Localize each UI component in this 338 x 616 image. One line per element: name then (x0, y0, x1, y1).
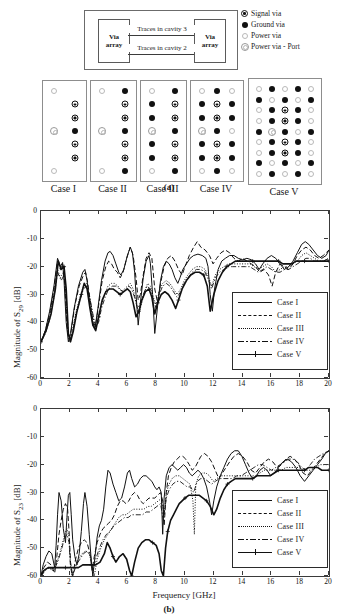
legend-item-signal-via: Signal via (238, 8, 338, 19)
chart-s29-legend: Case ICase IICase IIICase IVCase V (232, 292, 328, 370)
via-array-right: Via array (194, 19, 226, 63)
power-via-marker (149, 88, 155, 94)
case-diagram-3 (140, 80, 187, 182)
chart-s23-xtick-mark (184, 571, 185, 575)
legend-entry-3: Case III (233, 520, 327, 533)
legend-entry-label: Case I (277, 298, 298, 307)
chart-s29-ytick: -30 (18, 289, 37, 298)
chart-s29-xtick: 18 (295, 379, 303, 388)
chart-s29-xtick: 20 (324, 379, 332, 388)
ground-via-marker (229, 101, 235, 107)
ground-via-marker (172, 128, 178, 134)
case-diagram-1 (42, 80, 87, 182)
ground-via-marker (282, 97, 288, 103)
ground-via-marker (269, 150, 275, 156)
chart-s23-xtick-mark (213, 571, 214, 575)
chart-s23-xtick-mark-top (328, 408, 329, 412)
chart-s23-xtick-mark (126, 571, 127, 575)
chart-s29-xtick-mark-top (126, 210, 127, 214)
legend-item-power-via-port: Power via - Port (238, 41, 338, 52)
chart-s23-xtick-mark-top (98, 408, 99, 412)
power-via-marker (308, 107, 314, 113)
via-grid (43, 81, 86, 181)
chart-s29-xtick: 10 (180, 379, 188, 388)
chart-s29-ytick: -20 (18, 261, 37, 270)
chart-s23-ytick: -20 (18, 459, 37, 468)
chart-s23-ytick: -60 (18, 571, 37, 580)
chart-s23-ytick-mark-right (324, 575, 328, 576)
chart-s29-xtick-mark-top (213, 210, 214, 214)
chart-s29-ytick-mark (40, 210, 44, 211)
chart-s23-xtick-mark-top (299, 408, 300, 412)
chart-s23-xtick-mark-top (270, 408, 271, 412)
chart-s23-ytick-mark-right (324, 436, 328, 437)
chart-s23-xtick-mark (299, 571, 300, 575)
ground-via-marker (269, 118, 275, 124)
series-marker (79, 293, 83, 297)
legend-line-swatch (238, 495, 272, 506)
chart-s29-ytick-mark (40, 266, 44, 267)
trace-label-cavity2: Traces in cavity 2 (129, 44, 195, 52)
legend-label-power-via: Power via (251, 31, 281, 40)
signal-via-marker (214, 141, 221, 148)
ground-via-marker (308, 129, 314, 135)
chart-s29-ylabel-sub: 29 (17, 305, 25, 312)
legend-marker-icon (252, 351, 258, 357)
power-via-marker (269, 97, 275, 103)
power-via-marker (295, 129, 301, 135)
signal-via-marker (172, 141, 179, 148)
ground-via-marker (295, 139, 301, 145)
signal-via-marker (122, 114, 129, 121)
ground-via-marker (214, 168, 220, 174)
chart-s23-xtick: 8 (153, 577, 157, 586)
trace-label-cavity3: Traces in cavity 3 (129, 25, 195, 33)
chart-s23-xtick: 16 (267, 577, 275, 586)
chart-s29-ytick: -40 (18, 317, 37, 326)
panel-a: Via array Via array Traces in cavity 3 T… (0, 0, 338, 200)
chart-s29-xtick: 0 (38, 379, 42, 388)
legend-entry-label: Case V (277, 350, 301, 359)
chart-s23-ytick: -10 (18, 431, 37, 440)
ground-via-marker (229, 115, 235, 121)
power-via-marker (199, 168, 205, 174)
ground-via-marker (295, 86, 301, 92)
signal-via-marker (282, 117, 289, 124)
signal-via-marker (172, 101, 179, 108)
ground-via-marker (172, 88, 178, 94)
signal-via-marker (122, 141, 129, 148)
ground-via-marker (269, 171, 275, 177)
signal-via-marker (172, 114, 179, 121)
series-marker (177, 298, 181, 302)
legend-entry-5: Case V (233, 546, 327, 559)
chart-s29-xtick: 4 (96, 379, 100, 388)
power-via-marker (308, 86, 314, 92)
chart-s23-xtick: 4 (96, 577, 100, 586)
power-via-marker (51, 88, 57, 94)
legend-line-swatch (238, 349, 272, 360)
signal-via-marker (72, 101, 79, 108)
chart-s29-xtick-mark (69, 373, 70, 377)
legend-entry-label: Case IV (277, 337, 304, 346)
legend-label-power-via-port: Power via - Port (251, 42, 300, 51)
via-grid (91, 81, 136, 181)
legend-line-swatch (238, 336, 272, 347)
ground-via-marker (269, 86, 275, 92)
power-via-marker (256, 107, 262, 113)
ground-via-marker (295, 118, 301, 124)
chart-s29-ytick-mark (40, 321, 44, 322)
chart-s23-xtick: 6 (125, 577, 129, 586)
chart-s23-xtick-mark (155, 571, 156, 575)
figure-root: Via array Via array Traces in cavity 3 T… (0, 0, 338, 616)
ground-via-marker (269, 139, 275, 145)
power-via-marker (308, 150, 314, 156)
power-via-marker (256, 150, 262, 156)
chart-s29-xtick-mark-top (184, 210, 185, 214)
ground-via-marker (172, 168, 178, 174)
chart-s29-xtick-mark (184, 373, 185, 377)
chart-s23-ytick-mark (40, 408, 44, 409)
ground-via-marker (308, 160, 314, 166)
signal-via-marker (214, 154, 221, 161)
ground-via-marker (229, 155, 235, 161)
ground-via-marker (149, 101, 155, 107)
power-via-marker (295, 160, 301, 166)
